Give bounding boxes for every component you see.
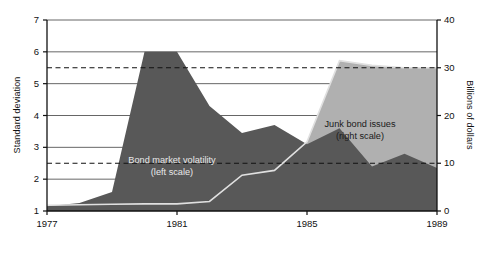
annotation-volatility-scale: (left scale) (151, 167, 193, 177)
y-axis-left-tick-1: 1 (19, 205, 39, 216)
y-axis-left-tick-6: 6 (19, 46, 39, 57)
y-axis-right-tick-20: 20 (444, 110, 470, 121)
y-axis-left-tick-7: 7 (19, 14, 39, 25)
x-axis-tick-1981: 1981 (157, 218, 197, 229)
x-axis-tick-1985: 1985 (287, 218, 327, 229)
y-axis-left-tick-5: 5 (19, 78, 39, 89)
y-axis-right-tick-10: 10 (444, 157, 470, 168)
chart-figure: Standard deviation Billions of dollars 1… (0, 0, 489, 255)
annotation-junk-title: Junk bond issues (325, 119, 396, 129)
y-axis-left-tick-3: 3 (19, 141, 39, 152)
y-axis-left-tick-2: 2 (19, 173, 39, 184)
y-axis-right-tick-0: 0 (444, 205, 470, 216)
x-axis-tick-1989: 1989 (417, 218, 457, 229)
annotation-bond-market-volatility: Bond market volatility (left scale) (110, 155, 234, 178)
annotation-junk-bond-issues: Junk bond issues (right scale) (304, 119, 416, 142)
x-axis-tick-1977: 1977 (27, 218, 67, 229)
y-axis-right-tick-30: 30 (444, 62, 470, 73)
y-axis-left-tick-4: 4 (19, 110, 39, 121)
annotation-junk-scale: (right scale) (336, 131, 384, 141)
y-axis-right-tick-40: 40 (444, 14, 470, 25)
annotation-volatility-title: Bond market volatility (128, 155, 215, 165)
